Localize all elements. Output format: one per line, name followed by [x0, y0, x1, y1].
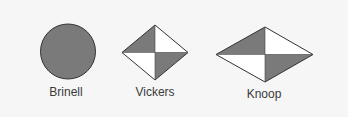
- knoop-label: Knoop: [247, 87, 282, 101]
- vickers-label: Vickers: [135, 85, 174, 99]
- vickers-indentation-icon: [122, 25, 188, 80]
- brinell-indentation-icon: [41, 24, 96, 79]
- indenter-diagram: [0, 0, 348, 117]
- brinell-label: Brinell: [49, 85, 82, 99]
- knoop-indentation-icon: [216, 27, 313, 82]
